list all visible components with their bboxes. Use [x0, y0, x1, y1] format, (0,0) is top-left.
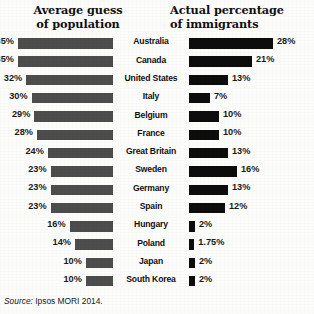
country-label: Great Britain [113, 146, 189, 156]
actual-bar [189, 258, 195, 268]
country-label: Germany [113, 183, 189, 193]
actual-bar-track [189, 130, 314, 140]
guess-bar-track [0, 93, 113, 103]
actual-value-label: 10% [223, 127, 241, 137]
country-label: Japan [113, 256, 189, 266]
header-actual-percentage-line1: Actual percentage [170, 3, 310, 17]
guess-bar-track [0, 258, 113, 268]
guess-bar-track [0, 38, 113, 48]
country-label: Canada [113, 55, 189, 65]
actual-value-label: 2% [199, 256, 212, 266]
chart-row: 23%Sweden16% [0, 162, 314, 180]
chart-row: 30%Italy7% [0, 89, 314, 107]
actual-bar-track [189, 203, 314, 213]
guess-bar [86, 258, 113, 268]
actual-bar [189, 93, 210, 103]
header-average-guess-line1: Average guess [8, 3, 148, 17]
actual-bar-track [189, 185, 314, 195]
country-label: Poland [113, 238, 189, 248]
infographic-chart: Average guess of population Actual perce… [0, 0, 314, 314]
actual-bar [189, 166, 237, 176]
chart-row: 10%Japan2% [0, 254, 314, 272]
actual-value-label: 21% [256, 54, 274, 64]
actual-value-label: 12% [229, 201, 247, 211]
source-text: Ipsos MORI 2014. [35, 296, 103, 306]
guess-bar [34, 111, 113, 121]
guess-bar-track [0, 185, 113, 195]
chart-row: 29%Belgium10% [0, 107, 314, 125]
actual-value-label: 16% [241, 164, 259, 174]
country-label: Spain [113, 201, 189, 211]
country-label: Australia [113, 36, 189, 46]
source-label: Source: [4, 296, 33, 306]
actual-value-label: 2% [199, 274, 212, 284]
chart-row: 14%Poland1.75% [0, 235, 314, 253]
chart-row: 10%South Korea2% [0, 272, 314, 290]
actual-value-label: 13% [232, 73, 250, 83]
guess-bar-track [0, 111, 113, 121]
actual-value-label: 10% [223, 109, 241, 119]
actual-bar-track [189, 148, 314, 158]
actual-bar-track [189, 93, 314, 103]
guess-bar [70, 221, 113, 231]
guess-bar-track [0, 239, 113, 249]
actual-bar [189, 203, 225, 213]
actual-bar [189, 185, 228, 195]
chart-row: 23%Spain12% [0, 199, 314, 217]
actual-value-label: 13% [232, 182, 250, 192]
guess-bar-track [0, 166, 113, 176]
country-label: France [113, 128, 189, 138]
chart-row: 35%Canada21% [0, 52, 314, 70]
chart-rows: 35%Australia28%35%Canada21%32%United Sta… [0, 34, 314, 290]
chart-row: 28%France10% [0, 125, 314, 143]
guess-bar-track [0, 203, 113, 213]
guess-bar [51, 203, 113, 213]
actual-bar-track [189, 56, 314, 66]
actual-bar [189, 75, 228, 85]
chart-row: 23%Germany13% [0, 180, 314, 198]
guess-bar [32, 93, 113, 103]
actual-bar [189, 221, 195, 231]
country-label: Belgium [113, 110, 189, 120]
actual-value-label: 2% [199, 219, 212, 229]
guess-bar-track [0, 75, 113, 85]
source-attribution: Source: Ipsos MORI 2014. [4, 296, 103, 306]
guess-bar-track [0, 130, 113, 140]
guess-bar [18, 56, 113, 66]
header-average-guess-line2: of population [8, 17, 148, 31]
actual-bar [189, 56, 252, 66]
actual-value-label: 13% [232, 146, 250, 156]
country-label: Italy [113, 91, 189, 101]
guess-bar-track [0, 276, 113, 286]
actual-bar [189, 130, 219, 140]
actual-value-label: 1.75% [198, 237, 224, 247]
actual-bar [189, 239, 194, 249]
guess-bar-track [0, 56, 113, 66]
country-label: Hungary [113, 219, 189, 229]
actual-bar-track [189, 111, 314, 121]
actual-bar [189, 276, 195, 286]
header-actual-percentage-line2: of immigrants [170, 17, 310, 31]
header-average-guess: Average guess of population [8, 3, 148, 31]
guess-bar-track [0, 148, 113, 158]
guess-bar [51, 185, 113, 195]
actual-bar-track [189, 75, 314, 85]
chart-row: 24%Great Britain13% [0, 144, 314, 162]
actual-value-label: 7% [214, 91, 227, 101]
header-actual-percentage: Actual percentage of immigrants [170, 3, 310, 31]
chart-row: 16%Hungary2% [0, 217, 314, 235]
guess-bar [75, 239, 113, 249]
guess-bar [86, 276, 113, 286]
guess-bar [18, 38, 113, 48]
chart-row: 35%Australia28% [0, 34, 314, 52]
country-label: South Korea [113, 274, 189, 284]
guess-bar [48, 148, 113, 158]
country-label: United States [113, 73, 189, 83]
actual-bar [189, 38, 273, 48]
guess-bar-track [0, 221, 113, 231]
chart-row: 32%United States13% [0, 71, 314, 89]
actual-bar [189, 148, 228, 158]
guess-bar [51, 166, 113, 176]
actual-value-label: 28% [277, 36, 295, 46]
guess-bar [37, 130, 113, 140]
